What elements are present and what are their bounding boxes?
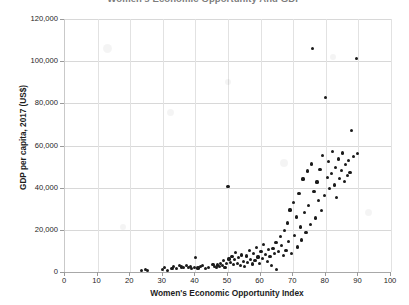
x-axis-tick-label: 10 (82, 276, 112, 285)
data-point (274, 241, 277, 244)
x-axis-tick-mark (64, 272, 65, 276)
gridline-vertical (195, 19, 196, 272)
x-axis-tick-label: 60 (245, 276, 275, 285)
data-point (266, 260, 269, 263)
x-axis-tick-label: 20 (114, 276, 144, 285)
data-point (317, 199, 320, 202)
gridline-vertical (98, 19, 99, 272)
data-point (299, 225, 302, 228)
data-point (242, 260, 245, 263)
data-point (346, 174, 349, 177)
data-point (303, 211, 306, 214)
data-point (234, 251, 237, 254)
data-point (253, 259, 256, 262)
gridline-vertical (261, 19, 262, 272)
data-point (251, 262, 254, 265)
data-point (310, 162, 313, 165)
data-point (194, 256, 197, 259)
gridline-vertical (130, 19, 131, 272)
data-point (262, 243, 265, 246)
data-point (284, 249, 287, 252)
data-point (347, 159, 350, 162)
data-point (312, 190, 315, 193)
data-point (337, 157, 340, 160)
scan-artifact (330, 54, 336, 60)
data-point (248, 249, 251, 252)
y-axis-tick-mark (60, 61, 64, 62)
data-point (264, 253, 267, 256)
data-point (288, 208, 291, 211)
data-point (252, 252, 255, 255)
data-point (268, 255, 271, 258)
data-point (296, 245, 299, 248)
data-point (237, 256, 240, 259)
data-point (166, 269, 169, 272)
data-point (334, 166, 337, 169)
data-point (307, 204, 310, 207)
y-axis-tick-label: 60,000 (0, 141, 58, 150)
data-point (292, 201, 295, 204)
y-axis-tick-label: 40,000 (0, 183, 58, 192)
data-point (275, 268, 278, 271)
data-point (323, 194, 326, 197)
data-point (286, 221, 289, 224)
data-point (301, 177, 304, 180)
y-axis-tick-mark (60, 188, 64, 189)
data-point (318, 168, 321, 171)
x-axis-tick-mark (260, 272, 261, 276)
x-axis-tick-label: 50 (212, 276, 242, 285)
data-point (343, 180, 346, 183)
data-point (330, 172, 333, 175)
x-axis-title: Women's Economic Opportunity Index (64, 288, 390, 298)
data-point (327, 160, 330, 163)
data-point (335, 196, 338, 199)
data-point (273, 252, 276, 255)
data-point (207, 266, 210, 269)
y-axis-tick-label: 20,000 (0, 225, 58, 234)
x-axis-tick-label: 0 (49, 276, 79, 285)
data-point (282, 254, 285, 257)
data-point (271, 247, 274, 250)
x-axis-tick-label: 80 (310, 276, 340, 285)
data-point (233, 258, 236, 261)
gridline-vertical (358, 19, 359, 272)
data-point (261, 257, 264, 260)
data-point (270, 264, 273, 267)
scan-artifact (103, 44, 112, 53)
data-point (309, 223, 312, 226)
data-point (328, 187, 331, 190)
y-axis-tick-label: 0 (0, 267, 58, 276)
data-point (340, 169, 343, 172)
data-point (321, 154, 324, 157)
data-point (193, 266, 196, 269)
data-point (341, 151, 344, 154)
x-axis-tick-mark (194, 272, 195, 276)
x-axis-tick-mark (325, 272, 326, 276)
data-point (311, 47, 314, 50)
x-axis-tick-mark (97, 272, 98, 276)
x-axis-tick-label: 100 (375, 276, 405, 285)
data-point (293, 234, 296, 237)
data-point (355, 57, 358, 60)
scan-artifact (280, 159, 288, 167)
data-point (338, 177, 341, 180)
data-point (243, 265, 246, 268)
data-point (314, 216, 317, 219)
x-axis-tick-mark (129, 272, 130, 276)
data-point (255, 246, 258, 249)
data-point (320, 209, 323, 212)
data-point (304, 231, 307, 234)
data-point (175, 267, 178, 270)
y-axis-title: GDP per capita, 2017 (US$) (19, 53, 28, 223)
data-point (279, 235, 282, 238)
data-point (326, 176, 329, 179)
gridline-horizontal (65, 272, 391, 273)
data-point (240, 253, 243, 256)
data-point (300, 238, 303, 241)
data-point (277, 250, 280, 253)
data-point (287, 240, 290, 243)
data-point (306, 169, 309, 172)
data-point (295, 215, 298, 218)
y-axis-tick-mark (60, 146, 64, 147)
data-point (226, 185, 229, 188)
